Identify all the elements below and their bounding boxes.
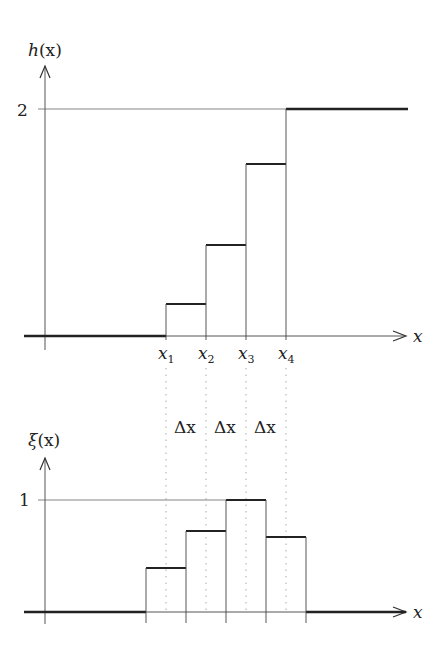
x-tick-4: x4	[278, 343, 295, 366]
delta-x-label-1: Δx	[174, 417, 196, 437]
top-y-tick-2: 2	[17, 100, 28, 120]
delta-x-label-2: Δx	[214, 417, 236, 437]
bottom-y-tick-1: 1	[19, 490, 30, 510]
top-y-label: h(x)	[28, 40, 62, 60]
bottom-plot: Δx Δx Δx ξ(x) 1 x	[19, 417, 423, 624]
top-plot: h(x) 2 x x1 x2 x3 x4	[17, 40, 423, 366]
x-tick-3: x3	[238, 343, 255, 366]
x-tick-1: x1	[158, 343, 175, 366]
x-tick-2: x2	[198, 343, 215, 366]
delta-x-label-3: Δx	[254, 417, 276, 437]
bottom-y-label: ξ(x)	[28, 430, 60, 450]
bottom-x-label: x	[413, 602, 423, 622]
step-function-diagram: h(x) 2 x x1 x2 x3 x4 Δx Δx Δx	[0, 0, 445, 656]
top-x-label: x	[413, 326, 423, 346]
